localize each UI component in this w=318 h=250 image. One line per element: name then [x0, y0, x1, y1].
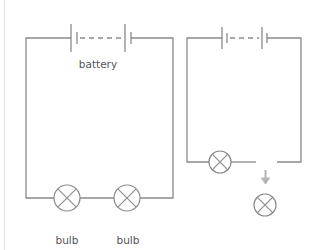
battery-label: battery — [79, 58, 117, 70]
battery-symbol — [222, 27, 267, 49]
down-arrow-icon — [262, 170, 270, 184]
right-wire-right — [267, 38, 301, 162]
removed-bulb-icon — [254, 194, 276, 216]
bulb-icon — [54, 185, 80, 211]
left-wire-left — [26, 38, 71, 198]
left-wire-right — [131, 38, 173, 198]
right-circuit — [187, 27, 301, 216]
left-circuit: battery bulb bulb — [26, 24, 173, 246]
bulb-label: bulb — [117, 234, 140, 246]
circuit-diagram: battery bulb bulb — [0, 0, 318, 250]
battery-symbol — [71, 24, 131, 52]
right-wire-left — [187, 38, 222, 162]
bulb-label: bulb — [56, 234, 79, 246]
bulb-icon — [114, 185, 140, 211]
bulb-icon — [209, 151, 231, 173]
